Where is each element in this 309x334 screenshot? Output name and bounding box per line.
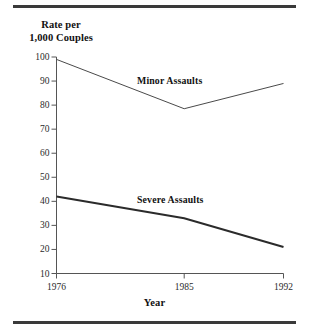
y-tick-label: 70 [24, 124, 50, 134]
x-tick-label: 1985 [164, 282, 204, 292]
y-tick-label: 60 [24, 148, 50, 158]
axes-group [57, 57, 284, 274]
data-series-group [57, 59, 284, 247]
y-tick-label: 50 [24, 172, 50, 182]
y-tick-label: 20 [24, 244, 50, 254]
y-tick-label: 100 [24, 52, 50, 62]
y-tick-label: 40 [24, 196, 50, 206]
x-tick-label: 1992 [264, 282, 304, 292]
y-tick-label: 30 [24, 220, 50, 230]
series-label-severe-assaults: Severe Assaults [137, 194, 204, 205]
y-tick-label: 90 [24, 76, 50, 86]
x-tick-label: 1976 [37, 282, 77, 292]
figure-container: Rate per 1,000 Couples Year 100908070605… [0, 0, 309, 334]
x-tick-marks [57, 274, 284, 279]
y-tick-marks [52, 57, 57, 274]
y-tick-label: 80 [24, 100, 50, 110]
y-tick-label: 10 [24, 269, 50, 279]
series-label-minor-assaults: Minor Assaults [137, 75, 202, 86]
